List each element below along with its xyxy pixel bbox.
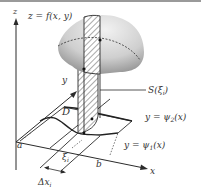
- x-axis-label: x: [150, 166, 155, 176]
- upper-curve-label: y = ψ2(x): [144, 112, 187, 123]
- surface-dome: [58, 15, 144, 74]
- point-bottom: [83, 132, 86, 135]
- point-upper: [91, 118, 94, 121]
- cross-section-label: S(ξi): [148, 85, 169, 96]
- projection-lines: [20, 132, 118, 155]
- xi-label: ξi: [62, 152, 69, 163]
- region-d-label: D: [61, 106, 70, 117]
- surface-label: z = f(x, y): [27, 11, 73, 21]
- point-top: [98, 38, 101, 41]
- b-label: b: [96, 159, 102, 169]
- a-label: a: [17, 140, 22, 150]
- delta-x-label: Δxi: [37, 177, 52, 188]
- z-axis-label: z: [12, 7, 18, 16]
- y-axis-label: y: [61, 75, 68, 85]
- double-integral-diagram: z x y: [0, 0, 201, 194]
- lower-curve-label: y = ψ1(x): [123, 140, 166, 151]
- cross-section-top: [84, 15, 100, 74]
